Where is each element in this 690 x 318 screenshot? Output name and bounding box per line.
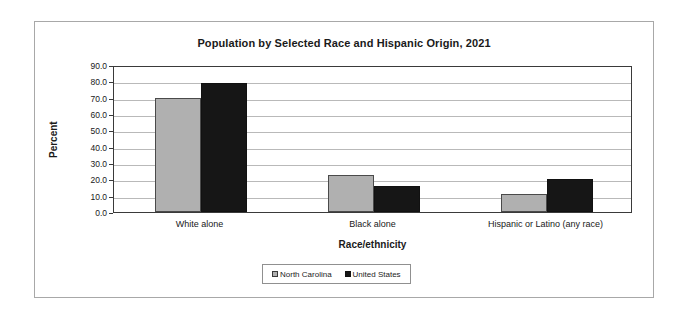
legend-swatch-icon: [272, 271, 278, 277]
bar-united-states: [547, 179, 593, 212]
x-axis-category-label: Black alone: [349, 219, 396, 229]
legend-item-label: United States: [353, 270, 401, 279]
y-axis-tick-label: 50.0: [90, 126, 107, 136]
legend-item-united-states: United States: [345, 270, 401, 279]
y-axis-tick-label: 90.0: [90, 61, 107, 71]
y-axis-tick-label: 40.0: [90, 143, 107, 153]
bar-north-carolina: [155, 98, 201, 212]
y-axis-title: Percent: [47, 105, 61, 175]
x-axis-title: Race/ethnicity: [113, 239, 632, 250]
y-axis-tick-label: 10.0: [90, 192, 107, 202]
y-axis-tick-label: 70.0: [90, 94, 107, 104]
bar-united-states: [201, 83, 247, 212]
chart-legend: North CarolinaUnited States: [262, 264, 411, 284]
bar-north-carolina: [501, 194, 547, 212]
x-axis-category-labels: White aloneBlack aloneHispanic or Latino…: [113, 219, 632, 235]
y-axis-tick-label: 60.0: [90, 110, 107, 120]
y-axis-tick-labels: 90.080.070.060.050.040.030.020.010.00.0: [62, 60, 113, 220]
legend-swatch-icon: [345, 271, 351, 277]
bar-series-group: [114, 67, 631, 212]
x-axis-category-label: White alone: [176, 219, 224, 229]
bar-north-carolina: [328, 175, 374, 212]
legend-item-north-carolina: North Carolina: [272, 270, 332, 279]
y-axis-tick-label: 80.0: [90, 77, 107, 87]
chart-title: Population by Selected Race and Hispanic…: [34, 37, 654, 49]
legend-item-label: North Carolina: [280, 270, 332, 279]
bar-united-states: [374, 186, 420, 212]
plot-area: [113, 66, 632, 213]
chart-page: Population by Selected Race and Hispanic…: [0, 0, 690, 318]
y-axis-tick-label: 0.0: [95, 208, 107, 218]
y-axis-tick-label: 30.0: [90, 159, 107, 169]
y-axis-tick-mark: [109, 213, 113, 214]
x-axis-category-label: Hispanic or Latino (any race): [488, 219, 603, 229]
y-axis-tick-label: 20.0: [90, 175, 107, 185]
